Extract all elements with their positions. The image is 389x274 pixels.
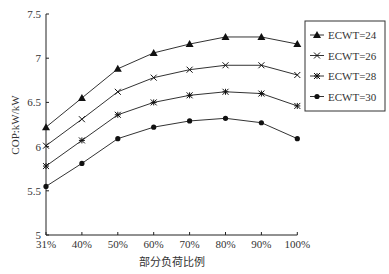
x-axis-label: 部分负荷比例 — [139, 255, 205, 269]
y-tick-label: 6 — [36, 141, 42, 153]
legend-label: ECWT=26 — [328, 50, 377, 62]
x-tick-label: 40% — [72, 238, 92, 250]
y-tick-label: 6.5 — [27, 96, 41, 108]
series-ecwt-24 — [42, 33, 301, 130]
x-tick-label: 31% — [36, 238, 56, 250]
legend-label: ECWT=28 — [328, 70, 377, 82]
x-tick-label: 60% — [144, 238, 164, 250]
x-tick-label: 80% — [215, 238, 235, 250]
y-tick-label: 5.5 — [27, 185, 41, 197]
series-group — [42, 33, 301, 189]
legend-label: ECWT=30 — [328, 91, 377, 103]
x-tick-label: 100% — [284, 238, 310, 250]
series-ecwt-30 — [43, 116, 300, 189]
series-ecwt-26 — [43, 62, 300, 148]
legend-label: ECWT=24 — [328, 29, 377, 41]
y-tick-label: 7 — [36, 52, 42, 64]
y-tick-label: 7.5 — [27, 8, 41, 20]
x-tick-label: 50% — [108, 238, 128, 250]
x-tick-label: 90% — [251, 238, 271, 250]
y-axis-label: COP:kW/kW — [9, 95, 21, 155]
legend: ECWT=24ECWT=26ECWT=28ECWT=30 — [305, 21, 385, 111]
line-chart: 55.566.577.531%40%50%60%70%80%90%100% EC… — [0, 0, 389, 274]
x-tick-label: 70% — [180, 238, 200, 250]
axes: 55.566.577.531%40%50%60%70%80%90%100% — [27, 8, 310, 250]
